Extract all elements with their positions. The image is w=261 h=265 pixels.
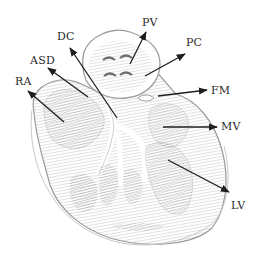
heart-diagram: DC PV ASD PC RA FM MV LV bbox=[0, 0, 261, 265]
label-dc: DC bbox=[57, 31, 75, 42]
label-pv: PV bbox=[142, 17, 158, 28]
label-mv: MV bbox=[221, 121, 241, 132]
label-lv: LV bbox=[231, 200, 245, 211]
label-fm: FM bbox=[211, 85, 230, 96]
label-pc: PC bbox=[186, 37, 202, 48]
label-asd: ASD bbox=[30, 55, 55, 66]
label-ra: RA bbox=[15, 76, 32, 87]
